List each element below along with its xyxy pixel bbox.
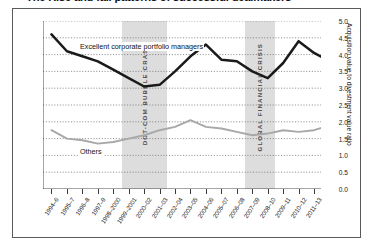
category-axis-tick <box>221 189 222 194</box>
category-axis-tick <box>190 189 191 194</box>
category-axis: 1994–61995–71996–81997–91998–20001999–20… <box>43 189 321 241</box>
page-title: The Rise and fall patterns of successful… <box>26 0 356 3</box>
category-axis-tick <box>314 189 315 194</box>
category-axis-tick <box>160 189 161 194</box>
category-axis-tick <box>113 189 114 194</box>
category-axis-label: 1996–8 <box>74 196 91 217</box>
series-label-excellent: Excellent corporate portfolio managers <box>79 42 204 51</box>
category-axis-tick <box>206 189 207 194</box>
value-axis: 5.04.54.03.53.02.52.01.51.00.50.0 <box>322 21 348 189</box>
category-axis-tick <box>129 189 130 194</box>
category-axis-tick <box>175 189 176 194</box>
category-axis-label: 1995–7 <box>59 196 76 217</box>
category-axis-tick <box>98 189 99 194</box>
category-axis-tick <box>299 189 300 194</box>
category-axis-tick <box>144 189 145 194</box>
category-axis-tick <box>252 189 253 194</box>
category-axis-tick <box>283 189 284 194</box>
plot-area: DOT-COM BUBBLE CRASHGLOBAL FINANCIAL CRI… <box>43 21 321 189</box>
chart-frame: DOT-COM BUBBLE CRASHGLOBAL FINANCIAL CRI… <box>12 8 361 238</box>
value-axis-title: Acquisition value to divestment value ra… <box>346 23 353 189</box>
category-axis-label: 1994–6 <box>43 196 60 217</box>
series-label-others: Others <box>79 147 103 156</box>
category-axis-tick <box>82 189 83 194</box>
category-axis-tick <box>51 189 52 194</box>
category-axis-tick <box>67 189 68 194</box>
series-line <box>51 120 321 144</box>
category-axis-tick <box>237 189 238 194</box>
category-axis-tick <box>268 189 269 194</box>
